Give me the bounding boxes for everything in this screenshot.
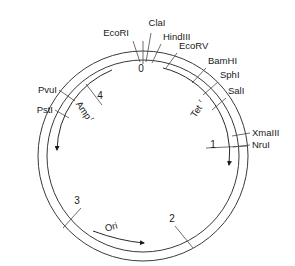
site-label-bamhi: BamHI (208, 55, 237, 66)
site-label-pvui: PvuI (38, 84, 57, 95)
gene-label-tet-superscript: r (197, 98, 203, 103)
site-label-ecorv: EcoRV (179, 40, 209, 51)
leader-pvui (59, 90, 75, 101)
plasmid-map: 0 1 2 3 4 EcoRI ClaI HindIII EcoRV BamHI… (0, 0, 295, 266)
site-label-ecori: EcoRI (103, 27, 129, 38)
leader-bamhi (192, 68, 206, 83)
tick-mark-2 (175, 226, 193, 248)
site-label-xmaiii: XmaIII (252, 127, 279, 138)
site-label-nrui: NruI (252, 139, 270, 150)
gene-label-tet: Tet r (188, 98, 207, 119)
origin-label-text: Ori (103, 220, 118, 234)
leader-hindiii (152, 44, 161, 63)
origin-label: Ori (103, 220, 118, 234)
site-label-sphi: SphI (220, 69, 240, 80)
tick-label-2: 2 (169, 213, 175, 224)
leader-clai (146, 33, 151, 62)
plasmid-outer-ring (38, 51, 248, 261)
origin-arrow (93, 231, 144, 243)
site-label-clai: ClaI (149, 17, 166, 28)
gene-label-tet-text: Tet (188, 102, 204, 119)
tick-label-0: 0 (138, 63, 144, 74)
site-label-sali: SalI (228, 85, 244, 96)
site-label-psti: PstI (37, 104, 53, 115)
tick-label-4: 4 (97, 90, 103, 101)
gene-label-amp: Amp r (74, 99, 96, 124)
tick-label-3: 3 (74, 195, 80, 206)
tick-mark-3 (63, 208, 81, 228)
leader-xmaiii (232, 133, 250, 136)
tick-label-1: 1 (210, 139, 216, 150)
